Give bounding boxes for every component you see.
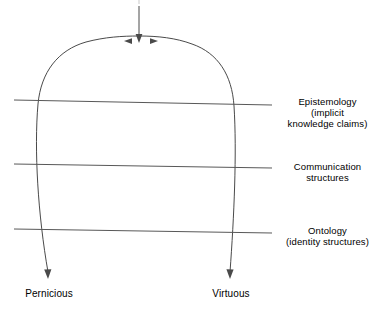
outcome-label-virtuous: Virtuous — [198, 288, 264, 300]
diagram-graphics — [0, 0, 377, 316]
apex-input-arrowhead — [136, 34, 143, 43]
communication-divider-line — [14, 164, 272, 168]
layer-label-communication: Communication structures — [280, 161, 375, 183]
apex-right-branch-arrowhead — [150, 38, 158, 44]
outcome-label-pernicious: Pernicious — [13, 288, 85, 300]
virtuous-outcome-arrowhead — [226, 269, 233, 279]
pernicious-outcome-arrowhead — [44, 269, 51, 279]
arch-left-limb — [36, 36, 139, 272]
arch-right-limb — [139, 36, 235, 272]
diagram-canvas: Epistemology (implicit knowledge claims)… — [0, 0, 377, 316]
ontology-divider-line — [14, 229, 272, 233]
apex-left-branch-arrowhead — [124, 38, 132, 44]
layer-label-epistemology: Epistemology (implicit knowledge claims) — [280, 96, 375, 130]
layer-label-ontology: Ontology (identity structures) — [278, 225, 377, 247]
